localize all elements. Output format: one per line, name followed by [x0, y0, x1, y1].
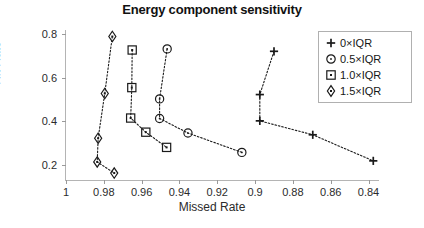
x-tick-mark: [66, 180, 67, 184]
x-tick-label: 0.84: [358, 186, 379, 198]
x-axis-line: [65, 180, 379, 181]
x-tick-mark: [142, 180, 143, 184]
y-tick-label: 0.8: [42, 28, 57, 40]
y-tick-mark: [62, 34, 66, 35]
circle-dot-icon: [323, 51, 339, 67]
x-tick-mark: [369, 180, 370, 184]
diamond-dot-icon: [323, 83, 339, 99]
y-tick-mark: [62, 121, 66, 122]
series-0-5-iqr: [156, 45, 246, 157]
y-tick-label: 0.4: [42, 115, 57, 127]
x-tick-label: 1: [63, 186, 69, 198]
legend-item-3[interactable]: 1.5×IQR: [323, 83, 407, 99]
legend-item-2[interactable]: 1.0×IQR: [323, 67, 407, 83]
chart-figure: Energy component sensitivity Hit Rate Mi…: [0, 0, 424, 228]
y-tick-label: 0.6: [42, 72, 57, 84]
chart-title: Energy component sensitivity: [0, 2, 424, 17]
y-tick-label: 0.2: [42, 159, 57, 171]
legend-label: 0×IQR: [339, 37, 372, 49]
x-tick-label: 0.92: [207, 186, 228, 198]
legend-item-1[interactable]: 0.5×IQR: [323, 51, 407, 67]
y-tick-mark: [62, 165, 66, 166]
x-tick-mark: [104, 180, 105, 184]
plus-icon: [323, 35, 339, 51]
x-axis-label: Missed Rate: [0, 200, 424, 214]
square-dot-icon: [323, 67, 339, 83]
x-tick-mark: [331, 180, 332, 184]
legend-item-0[interactable]: 0×IQR: [323, 35, 407, 51]
y-tick-mark: [62, 78, 66, 79]
chart-legend: 0×IQR0.5×IQR1.0×IQR1.5×IQR: [318, 31, 412, 103]
legend-label: 1.0×IQR: [339, 69, 381, 81]
legend-label: 0.5×IQR: [339, 53, 381, 65]
legend-label: 1.5×IQR: [339, 85, 381, 97]
x-tick-mark: [217, 180, 218, 184]
x-tick-label: 0.96: [131, 186, 152, 198]
series-1-5-iqr: [94, 31, 118, 178]
x-tick-mark: [293, 180, 294, 184]
y-axis-label: Hit Rate: [0, 13, 3, 113]
x-tick-label: 0.94: [169, 186, 190, 198]
x-tick-label: 0.9: [247, 186, 262, 198]
x-tick-mark: [255, 180, 256, 184]
x-tick-label: 0.86: [320, 186, 341, 198]
x-tick-mark: [179, 180, 180, 184]
x-tick-label: 0.98: [93, 186, 114, 198]
x-tick-label: 0.88: [282, 186, 303, 198]
